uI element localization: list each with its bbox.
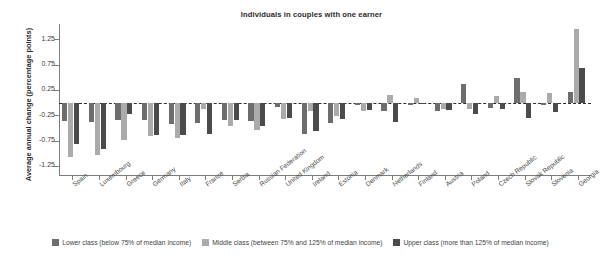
bar-group — [165, 24, 192, 176]
bar-lower — [381, 103, 386, 112]
bar-group — [112, 24, 139, 176]
bar-lower — [89, 103, 94, 122]
bar-upper — [287, 103, 292, 118]
bar-upper — [553, 103, 558, 112]
y-axis-tick-label: -0.75 — [39, 136, 55, 143]
y-axis-tick-label: 0.75 — [41, 60, 55, 67]
bar-lower — [195, 103, 200, 123]
bar-middle — [520, 92, 525, 102]
bar-middle — [467, 103, 472, 109]
bar-upper — [154, 103, 159, 135]
bar-lower — [169, 103, 174, 124]
bar-middle — [574, 29, 579, 103]
bar-group — [86, 24, 113, 176]
bar-middle — [201, 103, 206, 110]
y-axis-tick — [54, 65, 59, 66]
legend-label: Middle class (between 75% and 125% of me… — [212, 239, 382, 246]
bar-middle — [308, 103, 313, 111]
bar-group — [485, 24, 512, 176]
bar-upper — [74, 103, 79, 145]
bar-middle — [148, 103, 153, 136]
bar-lower — [461, 84, 466, 103]
bar-upper — [127, 103, 132, 115]
bar-middle — [281, 103, 286, 120]
bar-middle — [441, 103, 446, 110]
bar-group — [219, 24, 246, 176]
bar-upper — [313, 103, 318, 132]
y-axis-tick — [54, 90, 59, 91]
bar-group — [245, 24, 272, 176]
bar-lower — [222, 103, 227, 121]
bar-group — [192, 24, 219, 176]
bar-upper — [260, 103, 265, 127]
bar-middle — [334, 103, 339, 117]
bar-upper — [420, 103, 425, 105]
y-axis-tick-label: -0.25 — [39, 111, 55, 118]
bar-lower — [275, 103, 280, 108]
bar-upper — [180, 103, 185, 135]
bar-middle — [228, 103, 233, 126]
chart-figure: Individuals in couples with one earner A… — [0, 0, 601, 264]
bar-lower — [248, 103, 253, 121]
bar-group — [325, 24, 352, 176]
y-axis-tick-labels: 1.250.750.25-0.25-0.75-1.25 — [25, 24, 55, 176]
bar-middle — [95, 103, 100, 155]
bar-lower — [541, 103, 546, 106]
bar-lower — [302, 103, 307, 134]
legend-item[interactable]: Lower class (below 75% of median income) — [52, 239, 191, 246]
bar-group — [59, 24, 86, 176]
bar-lower — [514, 78, 519, 102]
legend-swatch-icon — [52, 239, 59, 246]
bar-upper — [526, 103, 531, 118]
bar-middle — [547, 93, 552, 103]
bar-lower — [568, 92, 573, 102]
y-axis-tick — [54, 166, 59, 167]
bar-lower — [142, 103, 147, 121]
bar-group — [352, 24, 379, 176]
bar-upper — [234, 103, 239, 120]
bar-upper — [367, 103, 372, 110]
bar-upper — [579, 68, 584, 103]
x-axis-tick-labels: SpainLuxembourgGreeceGermanyItalyFranceS… — [59, 180, 601, 232]
bar-lower — [62, 103, 67, 121]
y-axis-tick — [54, 115, 59, 116]
bar-lower — [328, 103, 333, 124]
legend-label: Upper class (more than 125% of median in… — [403, 239, 548, 246]
bar-middle — [68, 103, 73, 157]
legend-swatch-icon — [393, 239, 400, 246]
y-axis-tick-label: -1.25 — [39, 161, 55, 168]
bar-lower — [115, 103, 120, 120]
bar-upper — [473, 103, 478, 114]
legend-item[interactable]: Middle class (between 75% and 125% of me… — [202, 239, 382, 246]
y-axis-tick-label: 0.25 — [41, 85, 55, 92]
bar-lower — [488, 103, 493, 108]
bar-group — [378, 24, 405, 176]
bar-upper — [446, 103, 451, 110]
bar-lower — [435, 103, 440, 111]
y-axis-tick-label: 1.25 — [41, 35, 55, 42]
bar-upper — [101, 103, 106, 149]
bar-group — [564, 24, 591, 176]
bar-upper — [207, 103, 212, 134]
bar-group — [405, 24, 432, 176]
bar-upper — [393, 103, 398, 122]
bar-middle — [254, 103, 259, 131]
bar-middle — [494, 96, 499, 102]
legend-swatch-icon — [202, 239, 209, 246]
bar-upper — [500, 103, 505, 110]
chart-title: Individuals in couples with one earner — [0, 10, 601, 19]
legend-label: Lower class (below 75% of median income) — [62, 239, 191, 246]
bar-group — [458, 24, 485, 176]
bar-lower — [408, 103, 413, 105]
plot-area: 1.250.750.25-0.25-0.75-1.25 — [59, 24, 591, 176]
bar-lower — [355, 103, 360, 106]
legend-item[interactable]: Upper class (more than 125% of median in… — [393, 239, 548, 246]
bar-group — [431, 24, 458, 176]
y-axis-tick — [54, 39, 59, 40]
y-axis-tick — [54, 141, 59, 142]
bar-middle — [414, 98, 419, 102]
bar-groups — [59, 24, 591, 176]
bar-middle — [361, 103, 366, 112]
bar-group — [139, 24, 166, 176]
chart-legend: Lower class (below 75% of median income)… — [0, 239, 601, 246]
